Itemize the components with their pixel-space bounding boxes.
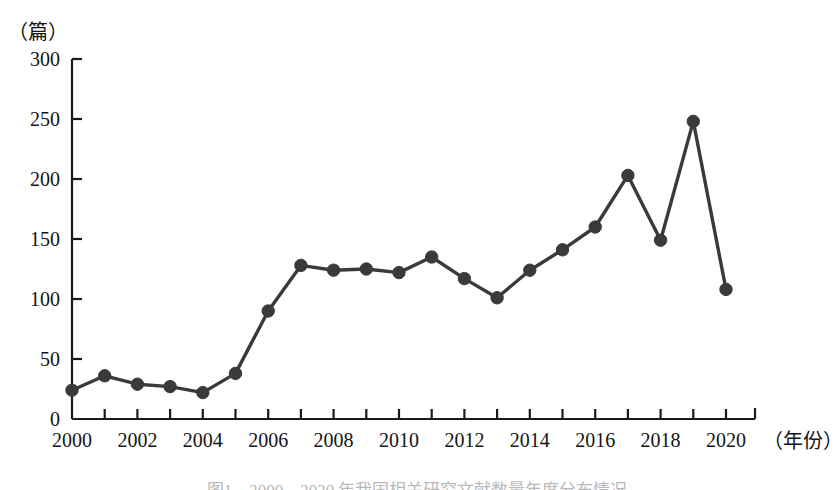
data-point-marker xyxy=(229,367,241,379)
svg-text:50: 50 xyxy=(40,348,60,370)
data-point-marker xyxy=(556,244,568,256)
x-axis-tick-labels: 2000200220042006200820102012201420162018… xyxy=(52,429,746,451)
data-point-marker xyxy=(295,259,307,271)
svg-text:2008: 2008 xyxy=(314,429,354,451)
svg-text:2016: 2016 xyxy=(575,429,615,451)
svg-text:2012: 2012 xyxy=(444,429,484,451)
svg-text:2010: 2010 xyxy=(379,429,419,451)
svg-text:150: 150 xyxy=(30,228,60,250)
svg-text:100: 100 xyxy=(30,288,60,310)
svg-text:2014: 2014 xyxy=(510,429,550,451)
data-point-marker xyxy=(66,384,78,396)
data-point-marker xyxy=(720,283,732,295)
data-point-marker xyxy=(491,292,503,304)
data-point-marker xyxy=(327,264,339,276)
data-point-marker xyxy=(654,234,666,246)
data-point-marker xyxy=(262,305,274,317)
data-point-marker xyxy=(197,386,209,398)
svg-text:2006: 2006 xyxy=(248,429,288,451)
svg-text:2000: 2000 xyxy=(52,429,92,451)
data-point-marker xyxy=(99,370,111,382)
line-chart-plot: 050100150200250300 200020022004200620082… xyxy=(0,0,834,490)
data-point-marker xyxy=(589,221,601,233)
svg-text:200: 200 xyxy=(30,168,60,190)
svg-text:2002: 2002 xyxy=(117,429,157,451)
y-axis-tick-labels: 050100150200250300 xyxy=(30,48,60,430)
svg-text:2004: 2004 xyxy=(183,429,223,451)
data-point-marker xyxy=(164,380,176,392)
data-series-line xyxy=(72,121,726,392)
data-point-marker xyxy=(131,378,143,390)
svg-text:2020: 2020 xyxy=(706,429,746,451)
figure-caption: 图1 2000—2020 年我国相关研究文献数量年度分布情况 xyxy=(0,476,834,490)
data-point-marker xyxy=(360,263,372,275)
data-point-marker xyxy=(524,264,536,276)
data-point-marker xyxy=(426,251,438,263)
data-point-marker xyxy=(458,272,470,284)
svg-text:300: 300 xyxy=(30,48,60,70)
svg-text:0: 0 xyxy=(50,408,60,430)
data-series-markers xyxy=(66,115,732,399)
data-point-marker xyxy=(393,266,405,278)
svg-text:2018: 2018 xyxy=(641,429,681,451)
axis-lines xyxy=(72,59,755,419)
chart-figure: （篇） （年份） 050100150200250300 200020022004… xyxy=(0,0,834,490)
data-point-marker xyxy=(622,169,634,181)
data-point-marker xyxy=(687,115,699,127)
svg-text:250: 250 xyxy=(30,108,60,130)
